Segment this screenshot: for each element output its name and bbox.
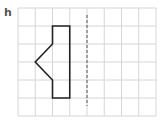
symmetry-grid [0,0,167,125]
